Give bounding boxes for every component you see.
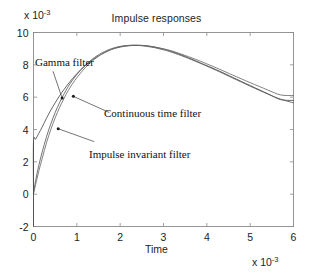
x-tick-label: 0 <box>31 231 37 243</box>
x-tick-label: 4 <box>204 231 210 243</box>
annotation-continuous-time-filter: Continuous time filter <box>104 107 201 119</box>
y-tick-label: 0 <box>0 188 29 200</box>
annotation-arrows <box>53 71 109 141</box>
y-tick-label: 10 <box>0 27 29 39</box>
annotation-impulse-invariant-filter: Impulse invariant filter <box>89 148 190 160</box>
x-tick-label: 1 <box>74 231 80 243</box>
y-tick-label: 4 <box>0 124 29 136</box>
x-tick-label: 5 <box>247 231 253 243</box>
annotation-gamma-filter: Gamma filter <box>35 56 94 68</box>
plot-canvas <box>0 0 313 277</box>
x-tick-label: 3 <box>161 231 167 243</box>
y-tick-label: 2 <box>0 156 29 168</box>
data-series-group <box>33 45 293 226</box>
y-tick-label: 6 <box>0 91 29 103</box>
x-tick-label: 2 <box>117 231 123 243</box>
y-tick-label: -2 <box>0 221 29 233</box>
chart-figure: Impulse responses x 10-3 x 10-3 Time Gam… <box>0 0 313 277</box>
y-tick-label: 8 <box>0 59 29 71</box>
x-tick-label: 6 <box>291 231 297 243</box>
